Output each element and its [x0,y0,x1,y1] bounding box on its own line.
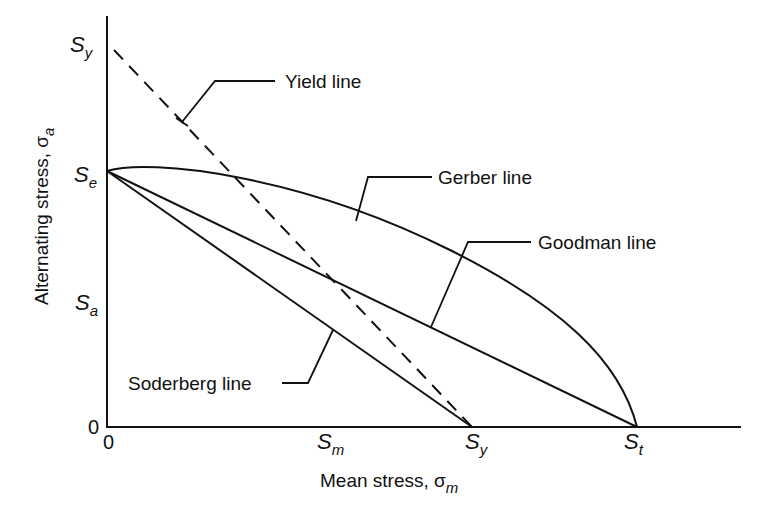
x-tick-st: St [624,429,644,458]
y-tick-sy: Sy [70,32,94,61]
fatigue-diagram: Yield line Gerber line Goodman line Sode… [0,0,765,528]
x-axis-title: Mean stress, σm [320,470,458,496]
y-tick-sa: Sa [75,290,98,319]
yield-leader [182,81,275,122]
x-tick-sm: Sm [317,429,344,458]
yield-line-label: Yield line [285,71,361,92]
goodman-line-label: Goodman line [538,232,656,253]
goodman-leader [431,242,531,327]
soderberg-line-label: Soderberg line [128,373,252,394]
yield-line [114,50,472,427]
x-tick-sy: Sy [465,429,489,458]
soderberg-leader [282,330,333,383]
y-axis-title: Alternating stress, σa [31,128,57,305]
y-tick-se: Se [74,162,97,191]
x-tick-zero: 0 [103,431,114,453]
yield-leader-tick [176,118,188,126]
y-tick-zero: 0 [88,416,99,438]
gerber-line-label: Gerber line [438,167,532,188]
